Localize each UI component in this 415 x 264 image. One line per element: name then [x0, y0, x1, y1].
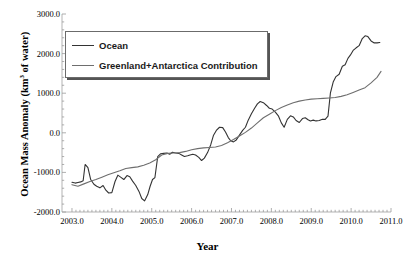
legend-label-ocean: Ocean: [99, 40, 128, 51]
legend-swatch-ocean: [72, 45, 94, 46]
legend-box: Ocean Greenland+Antarctica Contribution: [65, 31, 268, 78]
x-tick-label: 2011.0: [368, 216, 414, 226]
legend-item-ocean: Ocean: [72, 37, 128, 53]
legend-swatch-greenland-antarctica: [72, 65, 94, 66]
series-line-greenland-antarctica: [72, 71, 381, 186]
chart-figure: Ocean Mass Anomaly (km3 of water) -2000.…: [0, 0, 415, 264]
x-axis-title: Year: [0, 240, 415, 252]
x-axis-tick-labels: 2003.02004.02005.02006.02007.02008.02009…: [0, 216, 415, 230]
legend-label-greenland-antarctica: Greenland+Antarctica Contribution: [99, 60, 258, 71]
legend-item-greenland-antarctica: Greenland+Antarctica Contribution: [72, 57, 258, 73]
